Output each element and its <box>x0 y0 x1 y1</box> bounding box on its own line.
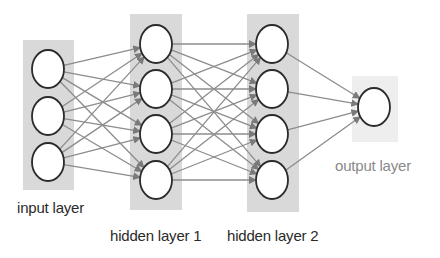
input-node-1 <box>32 50 64 88</box>
connection-edge <box>64 138 141 158</box>
input-node-2 <box>32 97 64 135</box>
input-layer-label: input layer <box>17 199 84 216</box>
output-node-1 <box>358 88 390 126</box>
hidden2-node-3 <box>256 115 288 153</box>
output-layer-label: output layer <box>335 157 411 174</box>
neural-network-diagram <box>0 0 440 258</box>
hidden2-node-1 <box>256 25 288 63</box>
hidden1-node-1 <box>140 25 172 63</box>
input-node-3 <box>32 143 64 181</box>
hidden-layer-1-label: hidden layer 1 <box>110 227 201 244</box>
hidden2-node-2 <box>256 70 288 108</box>
hidden2-node-4 <box>256 161 288 199</box>
hidden-layer-2-label: hidden layer 2 <box>227 227 318 244</box>
connections <box>60 44 361 180</box>
hidden1-node-2 <box>140 70 172 108</box>
hidden1-node-3 <box>140 115 172 153</box>
connection-edge <box>64 165 140 178</box>
hidden1-node-4 <box>140 161 172 199</box>
